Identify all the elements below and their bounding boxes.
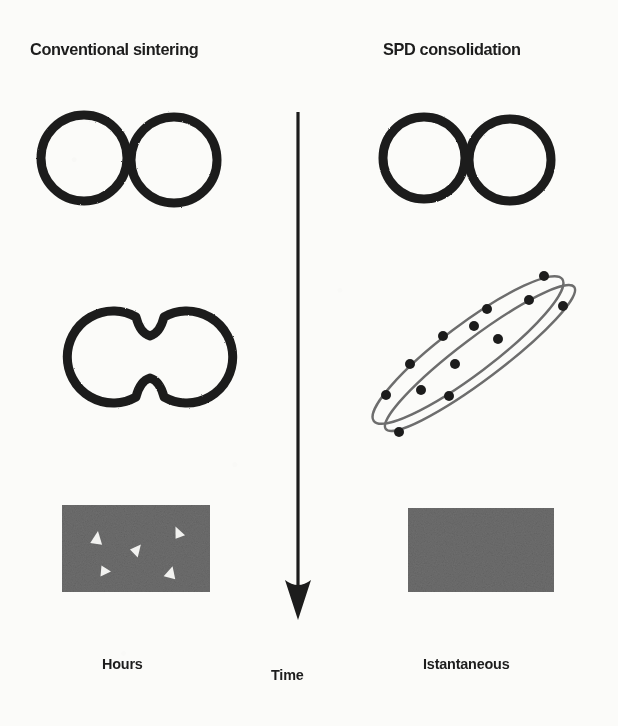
time-arrow-head [285, 580, 311, 620]
dispersed-particle [482, 304, 492, 314]
shear-ellipse [373, 270, 587, 446]
neck-outline [67, 311, 232, 403]
footer-label-instantaneous: Istantaneous [423, 655, 510, 672]
particle-circle [469, 119, 551, 201]
particle-pair-left-initial [41, 115, 217, 203]
micrograph-rectangle [408, 508, 554, 592]
sheared-ellipse-group [359, 259, 587, 446]
particle-circle [383, 117, 465, 199]
particle-circle [41, 115, 127, 201]
footer-label-time: Time [271, 666, 304, 683]
dispersed-particle [493, 334, 503, 344]
footer-label-hours: Hours [102, 655, 143, 672]
dispersed-particle [539, 271, 549, 281]
dispersed-particle [524, 295, 534, 305]
figure-drawing-layer [0, 0, 618, 726]
dispersed-particle [558, 301, 568, 311]
dispersed-particle [438, 331, 448, 341]
dispersed-particle [450, 359, 460, 369]
dispersed-particle [469, 321, 479, 331]
particle-pair-right-initial [383, 117, 551, 201]
dispersed-particle [416, 385, 426, 395]
time-arrow [285, 112, 311, 620]
microstructure-dense-rect [408, 508, 554, 592]
particle-circle [131, 117, 217, 203]
dispersed-particle [381, 390, 391, 400]
microstructure-porous-rect [62, 505, 210, 592]
dispersed-particle [405, 359, 415, 369]
dispersed-particle [394, 427, 404, 437]
dispersed-particle [444, 391, 454, 401]
neck-formation-shape [67, 311, 232, 403]
